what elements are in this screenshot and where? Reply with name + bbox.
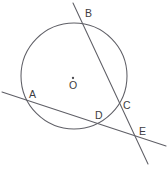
secant-line-bce: [73, 3, 148, 164]
geometry-canvas: [0, 0, 168, 170]
point-label-d: D: [95, 110, 103, 121]
geometry-figure: O A B C D E: [0, 0, 168, 170]
main-circle: [21, 23, 127, 129]
point-label-e: E: [139, 126, 146, 137]
center-label-o: O: [69, 80, 77, 91]
point-label-a: A: [29, 89, 36, 100]
point-label-c: C: [123, 100, 131, 111]
point-label-b: B: [85, 8, 92, 19]
secant-line-ade: [2, 92, 166, 146]
